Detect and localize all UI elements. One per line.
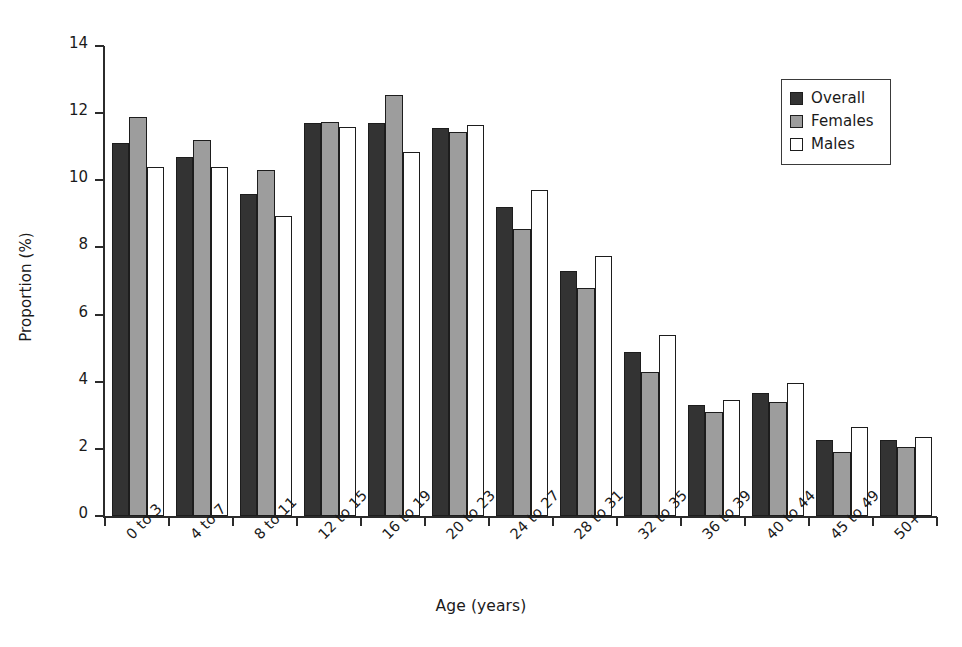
bar-females-50plus <box>897 447 915 516</box>
y-tick-mark: 6 <box>95 314 104 316</box>
y-tick-label: 8 <box>78 235 88 253</box>
bar-males-0-to-3 <box>147 167 165 516</box>
x-tick-mark <box>424 517 426 526</box>
bar-group <box>560 46 613 516</box>
x-tick-mark <box>552 517 554 526</box>
bar-chart-figure: Proportion (%) 02468101214 0 to 34 to 78… <box>0 0 962 647</box>
legend-item-females: Females <box>790 110 882 133</box>
bar-overall-36-to-39 <box>688 405 706 516</box>
x-axis-title: Age (years) <box>0 597 962 615</box>
x-tick-mark <box>296 517 298 526</box>
bar-males-8-to-11 <box>275 216 293 516</box>
bar-females-12-to-15 <box>321 122 339 516</box>
x-tick-mark <box>488 517 490 526</box>
bar-overall-8-to-11 <box>240 194 258 516</box>
bar-overall-12-to-15 <box>304 123 322 516</box>
y-tick-label: 12 <box>69 101 88 119</box>
bar-females-36-to-39 <box>705 412 723 516</box>
legend-item-overall: Overall <box>790 87 882 110</box>
bar-group <box>496 46 549 516</box>
x-tick-mark <box>232 517 234 526</box>
x-tick-mark <box>168 517 170 526</box>
bar-overall-45-to-49 <box>816 440 834 516</box>
bar-group <box>176 46 229 516</box>
bar-group <box>432 46 485 516</box>
bar-females-45-to-49 <box>833 452 851 516</box>
bar-females-24-to-27 <box>513 229 531 516</box>
bar-females-8-to-11 <box>257 170 275 516</box>
y-tick-label: 10 <box>69 168 88 186</box>
y-axis-line <box>103 46 105 517</box>
bar-females-4-to-7 <box>193 140 211 516</box>
bar-overall-0-to-3 <box>112 143 130 516</box>
bar-overall-20-to-23 <box>432 128 450 516</box>
x-tick-mark <box>872 517 874 526</box>
y-tick-label: 4 <box>78 370 88 388</box>
y-tick-label: 6 <box>78 303 88 321</box>
legend-item-males: Males <box>790 133 882 156</box>
x-tick-mark <box>936 517 938 526</box>
legend-label: Males <box>811 137 855 152</box>
x-tick-mark <box>104 517 106 526</box>
bar-group <box>368 46 421 516</box>
bar-overall-28-to-31 <box>560 271 578 516</box>
legend-swatch-icon <box>790 115 803 128</box>
y-tick-label: 2 <box>78 437 88 455</box>
x-tick-mark <box>808 517 810 526</box>
y-tick-mark: 4 <box>95 381 104 383</box>
bar-males-24-to-27 <box>531 190 549 516</box>
bar-males-16-to-19 <box>403 152 421 516</box>
bar-females-32-to-35 <box>641 372 659 516</box>
legend-swatch-icon <box>790 92 803 105</box>
x-tick-mark <box>744 517 746 526</box>
bar-overall-32-to-35 <box>624 352 642 517</box>
x-tick-mark <box>616 517 618 526</box>
bar-males-20-to-23 <box>467 125 485 516</box>
bar-females-0-to-3 <box>129 117 147 517</box>
bar-females-28-to-31 <box>577 288 595 516</box>
legend-swatch-icon <box>790 138 803 151</box>
bar-females-40-to-44 <box>769 402 787 516</box>
bar-males-50plus <box>915 437 933 516</box>
y-axis-title: Proportion (%) <box>17 177 35 397</box>
y-tick-mark: 10 <box>95 179 104 181</box>
bar-group <box>240 46 293 516</box>
bar-overall-24-to-27 <box>496 207 514 516</box>
bar-males-4-to-7 <box>211 167 229 516</box>
bar-group <box>688 46 741 516</box>
y-tick-mark: 12 <box>95 112 104 114</box>
bar-group <box>624 46 677 516</box>
bar-males-12-to-15 <box>339 127 357 516</box>
legend-label: Overall <box>811 91 865 106</box>
bar-females-20-to-23 <box>449 132 467 516</box>
x-tick-mark <box>680 517 682 526</box>
bar-males-28-to-31 <box>595 256 613 516</box>
x-tick-mark <box>360 517 362 526</box>
y-tick-mark: 14 <box>95 45 104 47</box>
y-tick-label: 0 <box>78 504 88 522</box>
bar-overall-16-to-19 <box>368 123 386 516</box>
bar-group <box>304 46 357 516</box>
bar-overall-50plus <box>880 440 898 516</box>
y-tick-label: 14 <box>69 34 88 52</box>
bar-males-32-to-35 <box>659 335 677 516</box>
legend-label: Females <box>811 114 874 129</box>
bar-overall-4-to-7 <box>176 157 194 516</box>
y-tick-mark: 8 <box>95 246 104 248</box>
bar-females-16-to-19 <box>385 95 403 516</box>
chart-legend: OverallFemalesMales <box>781 79 891 165</box>
y-tick-mark: 2 <box>95 448 104 450</box>
y-tick-mark: 0 <box>95 515 104 517</box>
bar-group <box>112 46 165 516</box>
